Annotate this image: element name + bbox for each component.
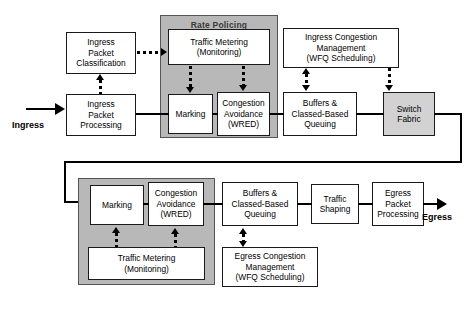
feedback-line-across: [64, 161, 462, 163]
egress-congestion-line-1: Egress Congestion: [235, 251, 306, 261]
dotted-classification-to-metering: [137, 51, 162, 54]
ingress-entry-line: [26, 108, 56, 110]
egress-metering-line-1: Traffic Metering: [118, 253, 176, 263]
dotted-classification-to-metering-arrowhead: [161, 48, 167, 56]
box-egress-traffic-metering[interactable]: Traffic Metering (Monitoring): [88, 247, 205, 280]
ingress-classification-line-1: Ingress: [76, 37, 125, 47]
box-ingress-marking[interactable]: Marking: [168, 94, 213, 134]
feedback-line-down-left: [64, 161, 66, 203]
egress-buffers-line-2: Classed-Based: [232, 199, 289, 209]
egress-processing-line-1: Egress: [377, 188, 418, 198]
egress-wred-line-1: Congestion: [155, 188, 197, 198]
box-egress-packet-processing[interactable]: Egress Packet Processing: [372, 182, 424, 226]
dotted-egress-metering-to-marking: [115, 233, 118, 247]
box-ingress-packet-processing[interactable]: Ingress Packet Processing: [66, 94, 136, 136]
box-ingress-packet-classification[interactable]: Ingress Packet Classification: [66, 32, 136, 74]
egress-metering-line-2: (Monitoring): [118, 264, 176, 274]
egress-congestion-line-2: Management: [235, 262, 306, 272]
ingress-congestion-line-2: Management: [305, 43, 377, 53]
line-processing-to-marking: [136, 113, 169, 115]
dotted-egress-metering-to-wred: [174, 234, 177, 247]
box-egress-marking[interactable]: Marking: [90, 185, 144, 225]
ingress-metering-line-2: (Monitoring): [190, 47, 248, 57]
ingress-endpoint-label: Ingress: [12, 120, 44, 130]
box-ingress-traffic-metering[interactable]: Traffic Metering (Monitoring): [168, 29, 270, 65]
box-egress-buffers-queuing[interactable]: Buffers & Classed-Based Queuing: [222, 182, 298, 226]
ingress-buffers-line-3: Queuing: [292, 119, 349, 129]
ingress-buffers-line-1: Buffers &: [292, 98, 349, 108]
dotted-metering-to-marking: [189, 66, 192, 88]
switch-fabric-line-2: Fabric: [397, 114, 422, 124]
egress-buffers-line-3: Queuing: [232, 209, 289, 219]
egress-congestion-line-3: (WFQ Scheduling): [235, 272, 306, 282]
ingress-entry-arrowhead: [55, 103, 65, 115]
switch-fabric-line-1: Switch: [397, 104, 422, 114]
dotted-processing-to-classification-arrowhead: [96, 74, 104, 80]
egress-processing-line-2: Packet: [377, 199, 418, 209]
egress-marking-label: Marking: [102, 200, 132, 210]
box-ingress-congestion-management[interactable]: Ingress Congestion Management (WFQ Sched…: [283, 28, 399, 68]
line-buffers-to-fabric: [356, 113, 384, 115]
line-marking-to-wred: [212, 113, 218, 115]
feedback-line-down-right: [460, 113, 462, 163]
feedback-line-fabric-right: [434, 113, 462, 115]
qos-pipeline-diagram: Rate Policing Ingress Packet Classificat…: [0, 0, 471, 320]
egress-wred-line-3: (WRED): [155, 209, 197, 219]
line-wred-to-buffers: [269, 113, 284, 115]
ingress-processing-line-2: Packet: [80, 110, 121, 120]
dotted-processing-to-classification: [99, 80, 102, 94]
ingress-buffers-line-2: Classed-Based: [292, 109, 349, 119]
egress-buffers-line-1: Buffers &: [232, 188, 289, 198]
ingress-classification-line-3: Classification: [76, 58, 125, 68]
traffic-shaping-line-1: Traffic: [320, 194, 351, 204]
dotted-egress-metering-to-wred-arrowhead: [171, 228, 179, 234]
dotted-egress-congestion-to-buffers-arrowhead-up: [239, 228, 247, 234]
box-traffic-shaping[interactable]: Traffic Shaping: [311, 184, 359, 224]
dotted-metering-to-wred: [242, 66, 245, 86]
egress-processing-line-3: Processing: [377, 209, 418, 219]
ingress-wred-line-1: Congestion: [222, 98, 264, 108]
dotted-ingress-congestion-to-fabric: [388, 68, 391, 86]
line-egress-buffers-to-shaping: [297, 203, 312, 205]
line-egress-shaping-to-processing: [358, 203, 373, 205]
egress-endpoint-label: Egress: [422, 212, 452, 222]
ingress-wred-line-2: Avoidance: [222, 109, 264, 119]
box-egress-congestion-avoidance[interactable]: Congestion Avoidance (WRED): [148, 182, 204, 226]
line-egress-marking-to-wred: [143, 203, 149, 205]
dotted-ingress-congestion-to-fabric-arrowhead: [385, 85, 393, 91]
dotted-egress-congestion-to-buffers-arrowhead-down: [239, 241, 247, 247]
dotted-ingress-congestion-to-buffers-arrowhead-up: [302, 68, 310, 74]
ingress-marking-label: Marking: [176, 109, 206, 119]
dotted-metering-to-wred-arrowhead: [239, 85, 247, 91]
ingress-congestion-line-1: Ingress Congestion: [305, 32, 377, 42]
traffic-shaping-line-2: Shaping: [320, 204, 351, 214]
box-ingress-congestion-avoidance[interactable]: Congestion Avoidance (WRED): [217, 92, 270, 136]
egress-exit-arrowhead: [437, 198, 447, 210]
dotted-egress-metering-to-marking-arrowhead: [112, 227, 120, 233]
dotted-ingress-congestion-to-buffers-arrowhead-down: [302, 85, 310, 91]
dotted-metering-to-marking-arrowhead: [186, 87, 194, 93]
ingress-congestion-line-3: (WFQ Scheduling): [305, 53, 377, 63]
ingress-processing-line-1: Ingress: [80, 99, 121, 109]
box-egress-congestion-management[interactable]: Egress Congestion Management (WFQ Schedu…: [222, 247, 318, 287]
egress-wred-line-2: Avoidance: [155, 199, 197, 209]
ingress-wred-line-3: (WRED): [222, 119, 264, 129]
box-switch-fabric[interactable]: Switch Fabric: [383, 92, 435, 136]
ingress-metering-line-1: Traffic Metering: [190, 37, 248, 47]
line-egress-wred-to-buffers: [203, 203, 223, 205]
box-ingress-buffers-queuing[interactable]: Buffers & Classed-Based Queuing: [283, 92, 357, 136]
ingress-classification-line-2: Packet: [76, 48, 125, 58]
ingress-processing-line-3: Processing: [80, 120, 121, 130]
